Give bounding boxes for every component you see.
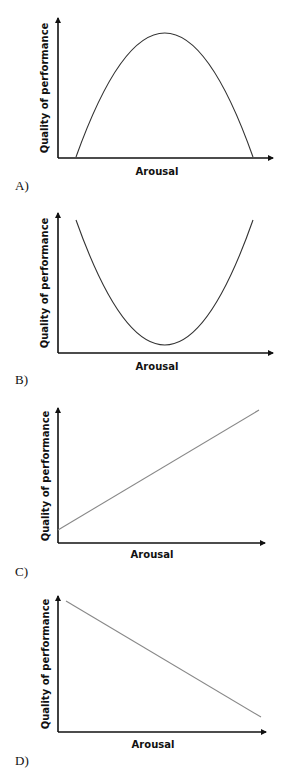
- chart-b-u-curve: [76, 220, 253, 345]
- chart-c: [58, 408, 265, 543]
- chart-c-y-label: Quality of performance: [41, 411, 51, 542]
- panel-label-a: A): [15, 179, 29, 192]
- chart-d: [58, 596, 266, 732]
- panel-label-c: C): [15, 565, 28, 578]
- chart-a-inverted-u-curve: [76, 33, 253, 157]
- chart-d-decreasing-line: [66, 601, 261, 717]
- chart-b-x-label: Arousal: [136, 362, 179, 372]
- chart-a-y-label: Quality of performance: [40, 23, 50, 154]
- chart-a-x-label: Arousal: [136, 167, 179, 177]
- chart-c-increasing-line: [58, 410, 259, 530]
- chart-d-y-label: Quality of performance: [41, 599, 51, 730]
- panel-label-d: D): [15, 754, 29, 767]
- chart-a: [58, 18, 273, 158]
- chart-d-x-label: Arousal: [132, 740, 175, 750]
- chart-c-x-label: Arousal: [131, 550, 174, 560]
- chart-b-y-label: Quality of performance: [40, 218, 50, 349]
- panel-label-b: B): [15, 373, 28, 386]
- chart-b: [58, 213, 273, 353]
